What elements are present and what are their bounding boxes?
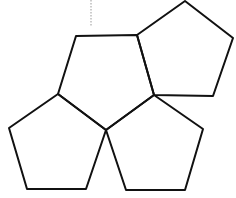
pentagon-bottom-left bbox=[9, 94, 106, 189]
pentagon-top-center bbox=[58, 35, 154, 130]
pentagon-net-diagram bbox=[0, 0, 236, 198]
pentagon-top-right bbox=[137, 1, 233, 96]
pentagon-bottom-right bbox=[106, 95, 203, 190]
